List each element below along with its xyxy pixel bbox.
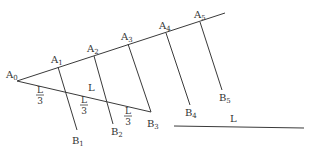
label-b1: B1 bbox=[72, 135, 84, 148]
svg-text:3: 3 bbox=[81, 106, 87, 116]
label-a3: A3 bbox=[120, 31, 133, 44]
fraction-l-over-3: L3 bbox=[124, 106, 132, 127]
label-a2: A2 bbox=[86, 43, 99, 56]
label-b3: B3 bbox=[147, 118, 159, 131]
label-a1: A1 bbox=[50, 54, 63, 67]
label-b5: B5 bbox=[219, 92, 231, 105]
parallel-line-1 bbox=[58, 67, 77, 130]
svg-text:L: L bbox=[125, 106, 131, 116]
fraction-l-over-3: L3 bbox=[36, 85, 44, 106]
parallel-line-2 bbox=[94, 56, 113, 124]
label-a0: A0 bbox=[5, 69, 18, 82]
label-a5: A5 bbox=[193, 9, 206, 22]
segment-division-diagram: L A0A1A2A3A4A5 B1B2B3B4B5 L3L3L3 L bbox=[0, 0, 318, 154]
b-point-labels: B1B2B3B4B5 bbox=[72, 92, 231, 148]
svg-text:L: L bbox=[37, 85, 43, 95]
parallel-line-4 bbox=[166, 33, 190, 105]
svg-text:3: 3 bbox=[125, 117, 131, 127]
a-point-labels: A0A1A2A3A4A5 bbox=[5, 9, 206, 82]
reference-segment-label: L bbox=[230, 113, 237, 124]
lower-segment-label: L bbox=[88, 82, 95, 93]
svg-text:L: L bbox=[81, 95, 87, 105]
fraction-l-over-3: L3 bbox=[80, 95, 88, 116]
parallel-line-5 bbox=[200, 22, 222, 90]
fraction-labels: L3L3L3 bbox=[36, 85, 132, 127]
label-a4: A4 bbox=[158, 20, 171, 33]
svg-text:3: 3 bbox=[37, 96, 43, 106]
label-b4: B4 bbox=[185, 107, 197, 120]
parallel-line-3 bbox=[128, 44, 151, 112]
upper-ray bbox=[17, 13, 225, 81]
label-b2: B2 bbox=[111, 126, 123, 139]
upper-ray-line bbox=[17, 13, 225, 81]
reference-segment-line bbox=[174, 126, 304, 128]
